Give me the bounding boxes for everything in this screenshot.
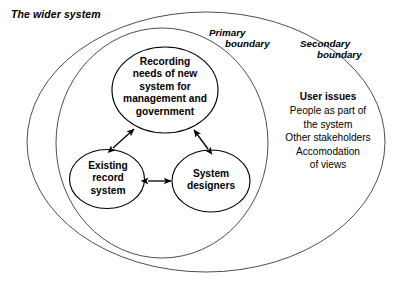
system-designers-line-1: System (193, 168, 229, 179)
secondary-boundary-label: Secondaryboundary (300, 38, 362, 60)
user-issues-line-1: People as part of (272, 104, 384, 117)
user-issues-line-4: Accomodation (272, 145, 384, 158)
secondary-boundary-label-line1: Secondary (300, 38, 350, 49)
user-issues-line-2: the system (272, 118, 384, 131)
recording-needs-line-5: government (136, 106, 194, 117)
user-issues-line-5: of views (272, 158, 384, 171)
existing-record-system-line-2: record (92, 172, 124, 183)
recording-needs-line-4: management and (123, 93, 207, 104)
existing-record-system-line-1: Existing (88, 160, 128, 171)
recording-needs-line-1: Recording (140, 56, 190, 67)
primary-boundary-label: Primaryboundary (209, 27, 270, 49)
system-designers-label: System designers (173, 168, 249, 193)
arrow-designers-to-recording (194, 130, 208, 149)
diagram-canvas: The wider system Primaryboundary Seconda… (0, 0, 412, 284)
existing-record-system-label: Existing record system (72, 160, 144, 197)
recording-needs-line-2: needs of new (133, 68, 198, 79)
user-issues-block: User issues People as part of the system… (272, 90, 384, 172)
primary-boundary-label-line1: Primary (209, 27, 246, 38)
recording-needs-label: Recording needs of new system for manage… (112, 56, 218, 118)
user-issues-title: User issues (272, 90, 384, 103)
recording-needs-line-3: system for (139, 81, 191, 92)
wider-system-label: The wider system (11, 9, 101, 21)
arrow-existing-to-recording (113, 129, 134, 148)
primary-boundary-label-line2: boundary (209, 38, 270, 49)
system-designers-line-2: designers (187, 180, 235, 191)
existing-record-system-line-3: system (90, 185, 125, 196)
user-issues-line-3: Other stakeholders (272, 131, 384, 144)
secondary-boundary-label-line2: boundary (300, 49, 362, 60)
